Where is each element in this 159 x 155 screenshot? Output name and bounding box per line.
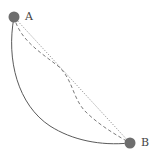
point-a-marker (9, 12, 20, 23)
diagram-svg (0, 0, 159, 155)
straight-line-path (14, 17, 130, 143)
cycloid-curve-path (12, 17, 130, 144)
point-b-label: B (141, 137, 149, 148)
point-b-marker (125, 138, 136, 149)
diagram-canvas: A B (0, 0, 159, 155)
point-a-label: A (25, 11, 33, 22)
